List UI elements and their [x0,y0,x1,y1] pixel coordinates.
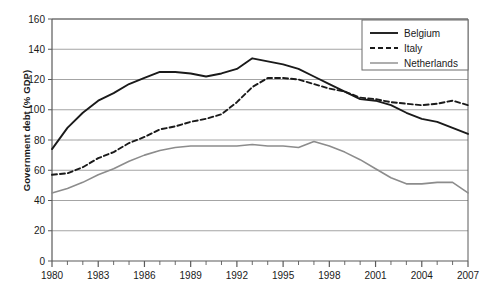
y-tick-label: 60 [34,165,46,176]
x-tick-label: 1986 [133,270,156,281]
series-line-netherlands [52,142,468,193]
legend-label-netherlands: Netherlands [404,58,458,69]
y-tick-label: 100 [28,104,45,115]
legend-label-italy: Italy [404,43,422,54]
x-tick-label: 2007 [457,270,480,281]
legend-label-belgium: Belgium [404,28,440,39]
x-tick-label: 1995 [272,270,295,281]
x-tick-label: 1980 [41,270,64,281]
y-tick-label: 80 [34,135,46,146]
y-tick-label: 160 [28,14,45,25]
x-tick-label: 1992 [226,270,249,281]
x-tick-label: 2001 [364,270,387,281]
x-tick-label: 1998 [318,270,341,281]
y-tick-label: 40 [34,195,46,206]
y-tick-label: 0 [39,256,45,267]
line-chart: 0204060801001201401601980198319861989199… [0,0,483,290]
x-tick-label: 2004 [411,270,434,281]
y-tick-label: 20 [34,225,46,236]
x-tick-label: 1983 [87,270,110,281]
y-tick-label: 140 [28,44,45,55]
chart-container: Government debt (% GDP) 0204060801001201… [0,0,483,290]
x-tick-label: 1989 [180,270,203,281]
y-tick-label: 120 [28,74,45,85]
